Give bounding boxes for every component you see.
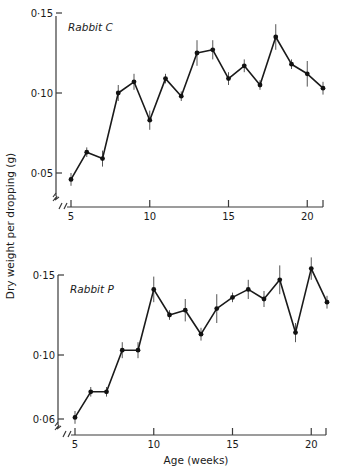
x-tick-label: 5: [72, 439, 78, 450]
data-point: [151, 287, 156, 292]
x-axis-title: Age (weeks): [164, 454, 229, 466]
data-point: [321, 86, 326, 91]
y-axis: 0·150·100·06: [33, 270, 64, 431]
data-point: [230, 295, 235, 300]
data-point: [246, 287, 251, 292]
panel-title: Rabbit P: [70, 283, 114, 295]
figure: Dry weight per dropping (g) Rabbit C 0·1…: [0, 0, 339, 473]
x-tick-label: 20: [305, 439, 318, 450]
data-point: [88, 389, 93, 394]
data-point: [120, 348, 125, 353]
data-point: [226, 76, 231, 81]
y-axis-title: Dry weight per dropping (g): [4, 153, 16, 299]
data-point: [84, 150, 89, 155]
data-point: [293, 330, 298, 335]
data-point: [325, 300, 330, 305]
data-point: [179, 94, 184, 99]
data-point: [132, 79, 137, 84]
y-tick-label: 0·10: [33, 350, 55, 361]
data-point: [309, 266, 314, 271]
x-tick-label: 5: [68, 211, 74, 222]
data-point: [289, 62, 294, 67]
data-point: [147, 118, 152, 123]
y-tick-label: 0·15: [33, 270, 55, 281]
data-point: [69, 177, 74, 182]
x-tick-label: 10: [143, 211, 156, 222]
panel-rabbit-p: Rabbit P 0·150·100·06 5101520: [33, 257, 330, 450]
data-series: [69, 24, 326, 186]
y-tick-label: 0·06: [33, 414, 55, 425]
x-axis: 5101520: [63, 428, 326, 450]
y-tick-label: 0·15: [31, 8, 53, 19]
data-point: [73, 415, 78, 420]
data-point: [136, 348, 141, 353]
x-tick-label: 20: [301, 211, 314, 222]
x-tick-label: 10: [147, 439, 160, 450]
data-point: [210, 47, 215, 52]
panel-title: Rabbit C: [68, 21, 113, 33]
data-point: [100, 156, 105, 161]
data-point: [262, 297, 267, 302]
data-point: [258, 83, 263, 88]
x-tick-label: 15: [226, 439, 239, 450]
axis-break-icon: [59, 203, 67, 209]
data-point: [214, 306, 219, 311]
data-point: [199, 332, 204, 337]
data-point: [242, 63, 247, 68]
data-point: [116, 91, 121, 96]
data-point: [163, 76, 168, 81]
data-point: [167, 313, 172, 318]
data-point: [195, 51, 200, 56]
data-point: [277, 277, 282, 282]
data-point: [273, 35, 278, 40]
data-point: [183, 308, 188, 313]
x-tick-label: 15: [222, 211, 235, 222]
y-tick-label: 0·05: [31, 168, 53, 179]
y-axis: 0·150·100·05: [31, 8, 62, 202]
data-point: [305, 71, 310, 76]
panel-rabbit-c: Rabbit C 0·150·100·05 5101520: [31, 8, 326, 223]
data-point: [104, 389, 109, 394]
x-axis: 5101520: [59, 200, 323, 222]
axis-break-icon: [63, 431, 71, 437]
y-tick-label: 0·10: [31, 88, 53, 99]
